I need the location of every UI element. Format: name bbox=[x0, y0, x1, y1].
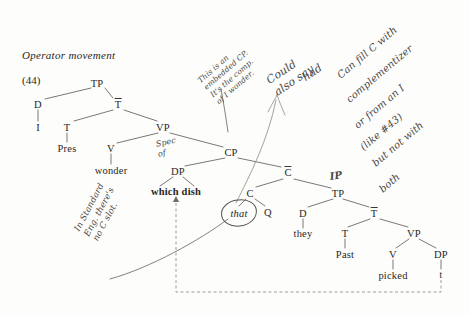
node-d-embedded: D bbox=[299, 208, 307, 219]
node-d-matrix: D bbox=[34, 99, 42, 110]
that-circle-annotation bbox=[220, 198, 259, 229]
node-cp: CP bbox=[224, 147, 237, 158]
node-tp-embedded: TP bbox=[332, 188, 345, 199]
node-wonder: wonder bbox=[95, 165, 128, 176]
node-i-pronoun: I bbox=[36, 122, 40, 133]
node-past: Past bbox=[336, 249, 354, 260]
node-vp-matrix: VP bbox=[156, 122, 170, 133]
node-dp-spec: DP bbox=[171, 166, 185, 177]
annotation-fill-c-line-6: both bbox=[377, 171, 403, 196]
annotation-fill-c-line-2: complementizer bbox=[344, 43, 416, 106]
node-which-dish: which dish bbox=[151, 186, 201, 197]
annotation-standard-eng-note: In Standard Eng. there's no C slot. bbox=[72, 180, 126, 243]
node-t-matrix: T bbox=[64, 122, 71, 133]
node-tbar-embedded: T bbox=[371, 207, 378, 219]
example-number: (44) bbox=[22, 74, 40, 86]
page-title: Operator movement bbox=[22, 49, 115, 61]
node-t-embedded: T bbox=[342, 228, 349, 239]
annotation-ip-gloss: IP bbox=[329, 169, 343, 183]
node-v-embedded: V bbox=[389, 249, 397, 260]
node-trace: t bbox=[440, 270, 443, 280]
node-they: they bbox=[294, 228, 313, 239]
annotation-embedded-cp-note: This is an embedded CP. It's the comp. o… bbox=[196, 42, 263, 107]
handwritten-syntax-tree-page: Operator movement (44) TP D I T T Pres V… bbox=[0, 0, 470, 314]
node-tbar-matrix: T bbox=[115, 98, 122, 110]
node-v-matrix: V bbox=[107, 143, 115, 154]
node-q-operator: Q bbox=[264, 207, 272, 218]
movement-arrowhead bbox=[173, 196, 179, 202]
node-vp-embedded: VP bbox=[407, 228, 421, 239]
node-picked: picked bbox=[378, 270, 407, 281]
node-pres: Pres bbox=[58, 143, 77, 154]
node-dp-object: DP bbox=[434, 249, 448, 260]
node-c-head: C bbox=[246, 188, 253, 199]
annotation-spec-of: Spec of bbox=[155, 136, 179, 160]
node-tp-matrix: TP bbox=[91, 78, 104, 89]
node-cbar: C bbox=[284, 166, 291, 178]
